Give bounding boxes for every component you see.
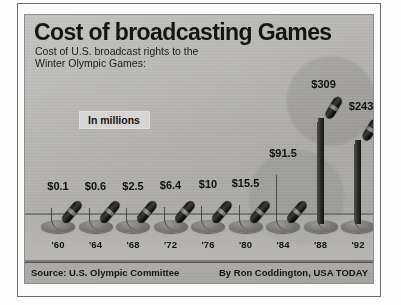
chart-title: Cost of broadcasting Games	[34, 19, 332, 46]
x-axis-tick-label: '72	[164, 239, 177, 250]
bar-value-label: $243	[349, 100, 373, 112]
bar-microphone: $0.1'60	[39, 204, 77, 224]
microphone-head	[323, 95, 343, 120]
microphone-grip-band	[292, 208, 301, 217]
microphone-grip-band	[67, 208, 76, 217]
x-axis-tick-label: '84	[277, 239, 290, 250]
bar-microphone: $2.5'68	[114, 204, 152, 224]
microphone-cord	[317, 122, 328, 230]
bar-microphone: $15.5'80	[227, 201, 265, 224]
x-axis-tick-label: '68	[127, 239, 140, 250]
bar-value-label: $10	[199, 178, 217, 190]
microphone-head	[361, 117, 374, 142]
bar-microphone: $309'88	[302, 102, 340, 224]
credit-note: By Ron Coddington, USA TODAY	[219, 267, 368, 278]
scanned-clipping: Cost of broadcasting Games Cost of U.S. …	[0, 0, 401, 305]
source-note: Source: U.S. Olympic Committee	[31, 267, 179, 278]
microphone-grip-band	[366, 126, 374, 134]
footer-divider	[25, 262, 374, 263]
x-axis-tick-label: '64	[89, 239, 102, 250]
microphone-grip-band	[217, 208, 226, 217]
x-axis-tick-label: '60	[52, 239, 65, 250]
microphone-cord	[354, 144, 365, 230]
microphone-grip-band	[105, 208, 114, 217]
x-axis-tick-label: '88	[314, 239, 327, 250]
bar-microphone: $6.4'72	[152, 203, 190, 224]
microphone-grip-band	[328, 104, 338, 112]
bar-value-label: $0.1	[47, 180, 68, 192]
microphone-grip-band	[255, 208, 264, 217]
microphone-cord	[276, 175, 287, 230]
bar-microphone: $0.6'64	[77, 204, 115, 224]
x-axis-tick-label: '92	[352, 239, 365, 250]
chart-subtitle: Cost of U.S. broadcast rights to the Win…	[35, 46, 198, 69]
microphone-grip-band	[142, 208, 151, 217]
bar-value-label: $15.5	[232, 177, 260, 189]
chart-panel: Cost of broadcasting Games Cost of U.S. …	[24, 14, 374, 284]
bar-value-label: $309	[311, 78, 335, 90]
x-axis-tick-label: '80	[239, 239, 252, 250]
x-axis-tick-label: '76	[202, 239, 215, 250]
bar-value-label: $0.6	[85, 180, 106, 192]
bar-value-label: $91.5	[269, 147, 297, 159]
microphone-grip-band	[180, 208, 189, 217]
units-label: In millions	[79, 111, 150, 129]
bar-microphone: $10'76	[189, 202, 227, 224]
bar-value-label: $2.5	[122, 180, 143, 192]
bar-microphone: $243'92	[339, 124, 374, 224]
bar-value-label: $6.4	[160, 179, 181, 191]
bar-microphone: $91.5'84	[264, 171, 302, 224]
